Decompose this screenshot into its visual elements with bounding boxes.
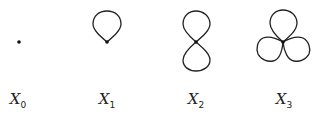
space-x3 xyxy=(257,10,310,61)
loop xyxy=(93,11,121,42)
label-symbol: X xyxy=(188,90,199,108)
loop-left xyxy=(257,37,283,61)
loop-bottom xyxy=(183,42,210,71)
space-x2 xyxy=(183,11,210,71)
label-x1: X1 xyxy=(99,90,115,110)
label-x0: X0 xyxy=(10,90,26,110)
basepoint xyxy=(105,40,109,44)
space-x1 xyxy=(93,11,121,44)
label-symbol: X xyxy=(10,90,21,108)
label-subscript: 2 xyxy=(198,100,204,110)
label-symbol: X xyxy=(276,90,287,108)
label-x3: X3 xyxy=(276,90,292,110)
wedge-of-circles-diagram xyxy=(0,0,320,116)
space-x0 xyxy=(17,40,21,44)
loop-top xyxy=(183,11,210,42)
label-subscript: 3 xyxy=(286,100,292,110)
loop-right xyxy=(283,37,310,61)
basepoint xyxy=(194,40,198,44)
basepoint xyxy=(17,40,21,44)
label-subscript: 1 xyxy=(109,100,115,110)
basepoint xyxy=(281,40,285,44)
label-x2: X2 xyxy=(188,90,204,110)
label-symbol: X xyxy=(99,90,110,108)
label-subscript: 0 xyxy=(20,100,26,110)
